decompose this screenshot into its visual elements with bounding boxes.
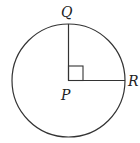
circle-diagram: [0, 0, 140, 143]
right-angle-marker: [69, 66, 84, 81]
label-r: R: [128, 74, 139, 88]
label-p: P: [61, 88, 70, 102]
label-q: Q: [61, 5, 72, 19]
